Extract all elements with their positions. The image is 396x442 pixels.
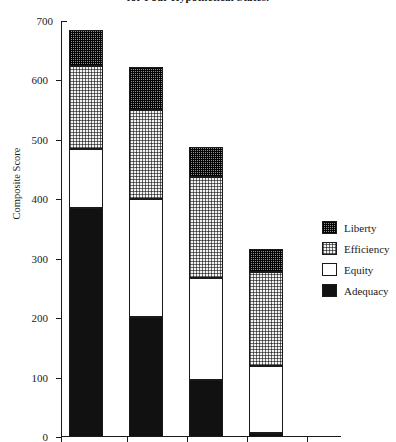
y-tick-label-300: 300	[32, 253, 49, 265]
chart-title: for Four Hypothetical States.	[0, 0, 396, 3]
y-tick-100: 100	[56, 378, 62, 379]
bar-state-2[interactable]	[129, 67, 163, 437]
legend-item-efficiency[interactable]: Efficiency	[322, 239, 396, 258]
legend-label-liberty: Liberty	[344, 222, 376, 234]
bar-3-segment-equity	[189, 278, 223, 380]
legend-item-adequacy[interactable]: Adequacy	[322, 281, 396, 300]
y-tick-label-0: 0	[43, 431, 49, 442]
y-tick-label-100: 100	[32, 372, 49, 384]
plot-area: 700 600 500 400 300 200 100 0	[61, 21, 341, 437]
bar-1-segment-equity	[69, 149, 103, 208]
y-tick-label-400: 400	[32, 193, 49, 205]
y-tick-700: 700	[61, 21, 67, 22]
y-tick-label-500: 500	[32, 134, 49, 146]
x-tick-3	[247, 436, 248, 442]
y-tick-300: 300	[56, 259, 62, 260]
bar-1-segment-efficiency	[69, 66, 103, 149]
legend-swatch-adequacy-icon	[322, 284, 337, 297]
y-tick-label-700: 700	[37, 15, 54, 27]
y-axis-line	[61, 21, 62, 437]
y-tick-500: 500	[56, 140, 62, 141]
bar-3-segment-liberty	[189, 147, 223, 177]
bar-4-segment-equity	[249, 366, 283, 433]
y-tick-label-200: 200	[32, 312, 49, 324]
y-tick-600: 600	[56, 80, 62, 81]
bar-state-4[interactable]	[249, 249, 283, 437]
bar-1-segment-adequacy	[69, 208, 103, 437]
legend-swatch-equity-icon	[322, 263, 337, 276]
legend-swatch-liberty-icon	[322, 221, 337, 234]
legend-label-equity: Equity	[344, 264, 373, 276]
x-tick-0	[61, 436, 62, 442]
legend-item-liberty[interactable]: Liberty	[322, 218, 396, 237]
bar-state-3[interactable]	[189, 147, 223, 437]
bar-4-segment-liberty	[249, 249, 283, 273]
x-tick-1	[127, 436, 128, 442]
bar-4-segment-adequacy	[249, 433, 283, 437]
bar-2-segment-efficiency	[129, 110, 163, 199]
chart-legend: Liberty Efficiency Equity Adequacy	[322, 218, 396, 302]
bar-2-segment-equity	[129, 199, 163, 317]
y-tick-400: 400	[56, 199, 62, 200]
y-tick-200: 200	[56, 318, 62, 319]
x-tick-2	[187, 436, 188, 442]
y-axis-label: Composite Score	[11, 124, 22, 244]
y-tick-label-600: 600	[32, 74, 49, 86]
x-tick-4	[307, 436, 308, 442]
legend-item-equity[interactable]: Equity	[322, 260, 396, 279]
bar-2-segment-liberty	[129, 67, 163, 110]
bar-state-1[interactable]	[69, 30, 103, 437]
legend-swatch-efficiency-icon	[322, 242, 337, 255]
legend-label-efficiency: Efficiency	[344, 243, 390, 255]
bar-2-segment-adequacy	[129, 317, 163, 437]
bar-3-segment-efficiency	[189, 177, 223, 278]
legend-label-adequacy: Adequacy	[344, 285, 389, 297]
chart-container: for Four Hypothetical States. Composite …	[0, 0, 396, 442]
bar-1-segment-liberty	[69, 30, 103, 66]
bar-4-segment-efficiency	[249, 272, 283, 365]
bar-3-segment-adequacy	[189, 380, 223, 437]
